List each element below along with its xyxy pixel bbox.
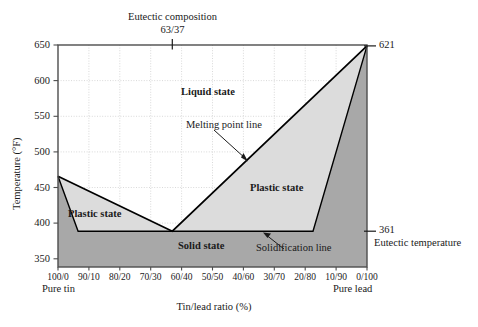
x-tick-label-3: 70/30	[136, 272, 166, 282]
eutectic-temperature-caption: Eutectic temperature	[374, 237, 461, 248]
x-tick-label-10: 0/100	[352, 272, 382, 282]
pure-tin-label: Pure tin	[42, 283, 75, 294]
melting-point-line-label: Melting point line	[186, 119, 262, 130]
x-axis-title: Tin/lead ratio (%)	[0, 301, 428, 312]
solidification-line-label: Solidification line	[256, 242, 332, 253]
eutectic-composition-title: Eutectic composition	[100, 11, 245, 22]
x-tick-label-7: 30/70	[259, 272, 289, 282]
region-label-liquid-state: Liquid state	[181, 86, 235, 97]
x-tick-label-9: 10/90	[321, 272, 351, 282]
eutectic-composition-value: 63/37	[100, 24, 245, 35]
value-label-621: 621	[379, 39, 395, 50]
y-tick-label-400: 400	[18, 217, 50, 228]
y-tick-label-600: 600	[18, 75, 50, 86]
region-label-plastic-state-left: Plastic state	[68, 208, 121, 219]
y-tick-label-450: 450	[18, 182, 50, 193]
pure-lead-label: Pure lead	[333, 283, 372, 294]
region-label-solid-state: Solid state	[178, 240, 224, 251]
x-tick-label-8: 20/80	[290, 272, 320, 282]
x-tick-label-1: 90/10	[74, 272, 104, 282]
phase-diagram-figure: Temperature (°F) 650 600 550 500 450 400…	[0, 0, 478, 327]
x-tick-label-2: 80/20	[105, 272, 135, 282]
x-tick-label-0: 100/0	[43, 272, 73, 282]
y-tick-label-350: 350	[18, 253, 50, 264]
y-tick-label-550: 550	[18, 110, 50, 121]
region-label-plastic-state-right: Plastic state	[250, 182, 303, 193]
y-tick-label-500: 500	[18, 146, 50, 157]
y-tick-label-650: 650	[18, 39, 50, 50]
x-tick-label-4: 60/40	[167, 272, 197, 282]
x-tick-label-5: 50/50	[198, 272, 228, 282]
value-label-361: 361	[379, 224, 395, 235]
x-tick-label-6: 40/60	[228, 272, 258, 282]
